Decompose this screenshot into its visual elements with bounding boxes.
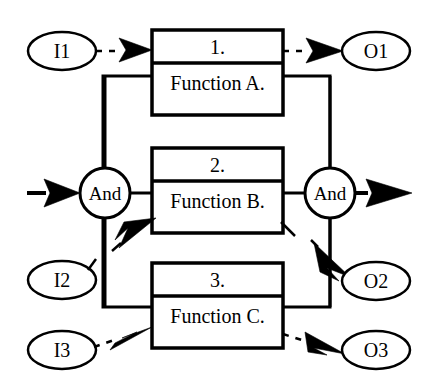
diagram-canvas: 1. Function A. 2. Function B. 3. Functio…	[0, 0, 436, 386]
block-2-name: Function B.	[170, 190, 264, 212]
I2-stub-tick	[88, 259, 96, 270]
and-left-label: And	[89, 183, 122, 204]
O3-label: O3	[364, 339, 388, 361]
output-node-O1[interactable]: O1	[342, 32, 410, 70]
and-gate-left[interactable]: And	[80, 168, 130, 218]
function-block-3[interactable]: 3. Function C.	[152, 263, 283, 348]
conn-block3-o3-line	[283, 334, 305, 341]
I3-label: I3	[54, 339, 71, 361]
I1-label: I1	[54, 40, 71, 62]
conn-i3-block3	[94, 327, 152, 350]
conn-andright-external-output	[355, 179, 412, 207]
block-1-name: Function A.	[170, 72, 264, 94]
function-block-1[interactable]: 1. Function A.	[152, 30, 283, 115]
conn-block1-o1-arrowhead	[306, 38, 343, 63]
conn-i1-block1-arrowhead	[119, 38, 152, 62]
conn-external-input-andleft	[27, 179, 80, 207]
conn-i1-block1	[96, 38, 152, 62]
function-block-diagram: 1. Function A. 2. Function B. 3. Functio…	[0, 0, 436, 386]
conn-i3-block3-line	[94, 340, 114, 347]
external-output-arrowhead	[366, 179, 412, 207]
input-node-I2[interactable]: I2	[28, 259, 96, 299]
and-gate-right[interactable]: And	[305, 168, 355, 218]
output-node-O3[interactable]: O3	[342, 331, 410, 369]
block-1-number: 1.	[210, 36, 225, 58]
block-3-number: 3.	[210, 269, 225, 291]
conn-block3-o3-arrowhead	[305, 332, 345, 355]
input-node-I3[interactable]: I3	[28, 331, 96, 369]
function-block-2[interactable]: 2. Function B.	[152, 148, 283, 233]
and-right-label: And	[314, 183, 347, 204]
block-2-number: 2.	[210, 154, 225, 176]
conn-i3-block3-arrowhead	[110, 327, 152, 350]
O2-label: O2	[364, 270, 388, 292]
O1-label: O1	[364, 40, 388, 62]
conn-block1-o1	[283, 38, 343, 63]
conn-diagonal-into-block2	[112, 218, 156, 251]
external-input-arrowhead	[44, 179, 80, 207]
conn-block3-o3	[283, 332, 345, 355]
input-node-I1[interactable]: I1	[28, 32, 96, 70]
block-3-name: Function C.	[170, 305, 264, 327]
output-node-O2[interactable]: O2	[342, 262, 410, 300]
I2-label: I2	[54, 269, 71, 291]
